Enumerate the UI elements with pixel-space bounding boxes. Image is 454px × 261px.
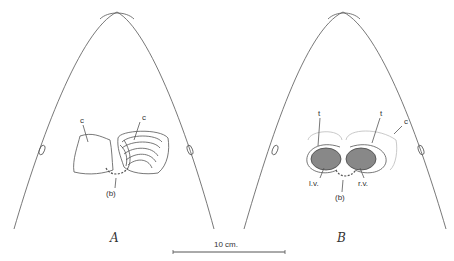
label-b-lv: l.v. bbox=[309, 180, 319, 188]
label-a-c-left: c bbox=[80, 117, 84, 125]
label-a-b: (b) bbox=[106, 190, 116, 198]
label-a-c-right: c bbox=[142, 114, 146, 122]
label-b-c: c bbox=[404, 118, 408, 126]
panel-label-a: A bbox=[110, 232, 119, 244]
label-b-rv: r.v. bbox=[358, 180, 368, 188]
figure-drawing bbox=[0, 0, 454, 261]
label-b-b: (b) bbox=[335, 194, 345, 202]
scale-bar bbox=[173, 250, 285, 254]
label-b-t-left: t bbox=[318, 110, 320, 118]
panel-label-b: B bbox=[337, 232, 346, 244]
label-b-t-right: t bbox=[380, 110, 382, 118]
panel-b-outline bbox=[244, 12, 446, 229]
scale-bar-label: 10 cm. bbox=[214, 241, 238, 249]
